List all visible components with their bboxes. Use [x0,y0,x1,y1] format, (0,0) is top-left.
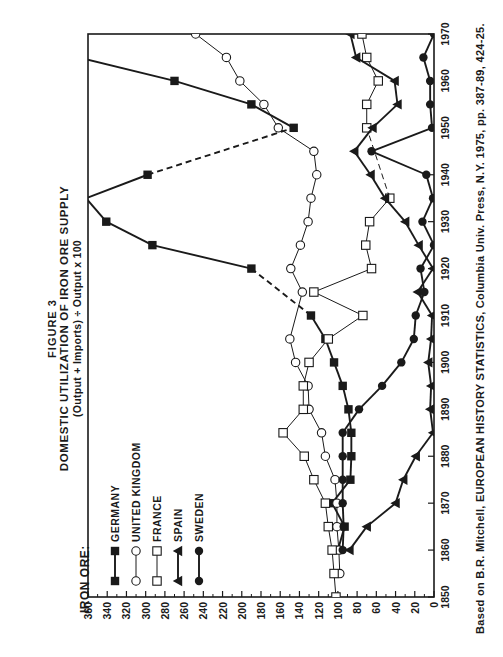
x-tick-label: 1920 [439,257,451,281]
y-tick-label: 160 [274,602,286,620]
legend-item: GERMANY [109,485,121,585]
y-tick-label: 360 [82,602,94,620]
y-tick-label: 340 [101,602,113,620]
y-tick-label: 260 [178,602,190,620]
legend-item: FRANCE [151,495,163,585]
legend-label: FRANCE [151,495,163,542]
legend-item: SPAIN [172,508,184,586]
line-chart: 0204060801001201401601802002202402602803… [0,0,503,657]
x-tick-label: 1870 [439,491,451,515]
y-tick-label: 220 [217,602,229,620]
y-tick-label: 140 [293,602,305,620]
y-tick-label: 60 [370,602,382,614]
x-tick-label: 1960 [439,69,451,93]
x-tick-label: 1850 [439,585,451,609]
legend-label: SPAIN [172,508,184,542]
y-tick-label: 180 [255,602,267,620]
x-tick-label: 1890 [439,397,451,421]
legend-item: SWEDEN [193,493,205,585]
legend-label: GERMANY [109,485,121,542]
x-tick-label: 1940 [439,163,451,187]
x-tick-label: 1970 [439,22,451,46]
legend: GERMANYUNITED KINGDOMFRANCESPAINSWEDEN [109,442,205,586]
x-tick-label: 1860 [439,538,451,562]
y-tick-label: 300 [140,602,152,620]
y-tick-label: 200 [236,602,248,620]
y-tick-label: 320 [120,602,132,620]
x-tick-label: 1900 [439,351,451,375]
y-tick-label: 120 [313,602,325,620]
y-tick-label: 20 [409,602,421,614]
x-tick-label: 1950 [439,116,451,140]
legend-item: UNITED KINGDOM [130,442,142,585]
y-tick-label: 80 [351,602,363,614]
legend-label: UNITED KINGDOM [130,442,142,542]
y-tick-label: 280 [159,602,171,620]
y-tick-label: 100 [332,602,344,620]
y-tick-label: 240 [197,602,209,620]
y-tick-label: 40 [390,602,402,614]
source-note: Based on B.R. Mitchell, EUROPEAN HISTORY… [474,0,486,657]
x-tick-label: 1910 [439,304,451,328]
rotated-figure: IRON ORE: FIGURE 3 DOMESTIC UTILIZATION … [0,0,503,657]
legend-label: SWEDEN [193,493,205,542]
x-tick-label: 1880 [439,444,451,468]
x-tick-label: 1930 [439,210,451,234]
